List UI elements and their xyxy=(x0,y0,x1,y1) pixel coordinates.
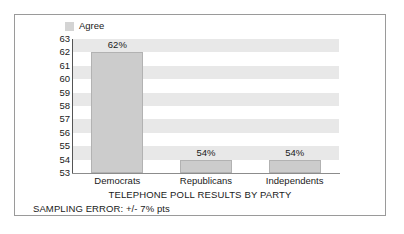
category-label-democrats: Democrats xyxy=(73,176,162,186)
y-tick-label: 57 xyxy=(52,115,70,125)
bar-value-label: 54% xyxy=(181,148,231,158)
bar-value-label: 62% xyxy=(92,40,142,50)
y-tick-label: 59 xyxy=(52,88,70,98)
bar-independents xyxy=(269,160,321,173)
y-tick-label: 56 xyxy=(52,128,70,138)
y-tick-label: 61 xyxy=(52,61,70,71)
category-label-republicans: Republicans xyxy=(162,176,251,186)
chart-legend: Agree xyxy=(65,17,104,35)
legend-label-agree: Agree xyxy=(79,21,104,31)
bar-value-label: 54% xyxy=(270,148,320,158)
y-tick-label: 62 xyxy=(52,48,70,58)
y-tick-label: 54 xyxy=(52,155,70,165)
y-tick-label: 63 xyxy=(52,34,70,44)
category-label-independents: Independents xyxy=(250,176,339,186)
y-tick-label: 60 xyxy=(52,74,70,84)
chart-frame: Agree 6362616059585756555453 62%54%54% D… xyxy=(14,14,386,216)
y-tick-label: 55 xyxy=(52,141,70,151)
x-axis-line xyxy=(72,173,340,174)
y-axis-tick-labels: 6362616059585756555453 xyxy=(49,39,70,173)
sampling-error-note: SAMPLING ERROR: +/- 7% pts xyxy=(33,203,170,214)
y-axis-line xyxy=(72,39,73,174)
x-axis-category-labels: DemocratsRepublicansIndependents xyxy=(73,176,339,190)
bar-republicans xyxy=(180,160,232,173)
bar-democrats xyxy=(91,52,143,173)
legend-swatch-agree xyxy=(65,22,74,31)
chart-title: TELEPHONE POLL RESULTS BY PARTY xyxy=(15,189,385,200)
y-tick-label: 53 xyxy=(52,168,70,178)
y-tick-label: 58 xyxy=(52,101,70,111)
